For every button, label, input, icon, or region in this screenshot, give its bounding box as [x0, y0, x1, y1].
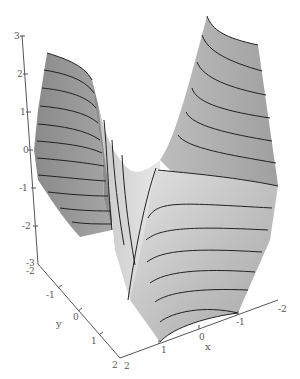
surface-front [130, 170, 278, 342]
svg-text:3: 3 [14, 31, 20, 41]
svg-text:-1: -1 [46, 290, 55, 300]
svg-text:1: 1 [91, 336, 97, 346]
svg-text:-1: -1 [236, 317, 245, 327]
svg-text:-2: -2 [278, 304, 287, 314]
svg-text:2: 2 [124, 361, 130, 371]
svg-text:1: 1 [20, 107, 26, 117]
svg-text:2: 2 [112, 360, 118, 370]
svg-text:-1: -1 [19, 183, 28, 193]
svg-text:1: 1 [161, 345, 167, 355]
svg-text:0: 0 [73, 312, 79, 322]
y-axis-label: y [55, 318, 62, 329]
svg-text:-2: -2 [22, 221, 31, 231]
y-tick-labels: -2 -1 0 1 2 y [26, 266, 118, 370]
svg-text:-2: -2 [26, 266, 35, 276]
svg-text:2: 2 [17, 69, 23, 79]
svg-text:0: 0 [23, 145, 29, 155]
x-axis-label: x [205, 341, 211, 352]
surface-plot: 3 2 1 0 -1 -2 -3 -2 -1 0 1 2 y 2 1 0 -1 … [0, 0, 300, 379]
y-axis [38, 264, 120, 358]
